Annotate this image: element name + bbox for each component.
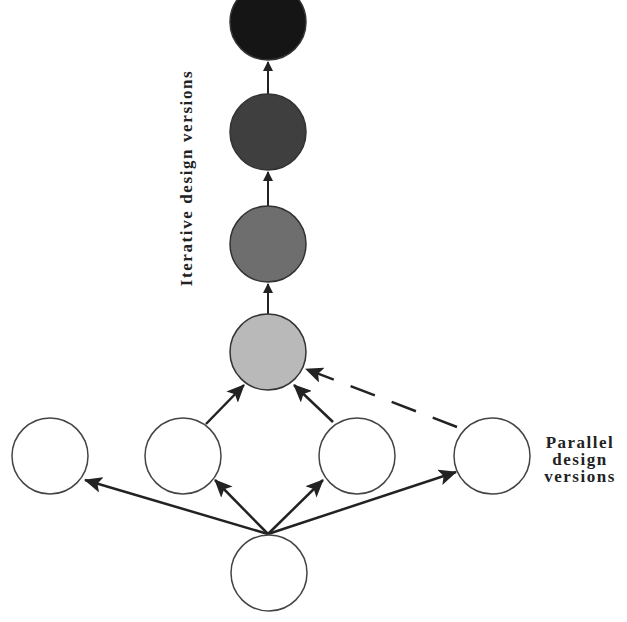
parallel-node-2 — [145, 418, 221, 494]
iterative-node-2 — [230, 206, 306, 282]
parallel-node-3 — [319, 418, 395, 494]
parallel-node-1 — [12, 418, 88, 494]
iterative-node-3 — [230, 94, 306, 170]
design-process-diagram: Iterative design versions Parallel desig… — [0, 0, 627, 622]
iterative-node-4 — [230, 0, 306, 60]
root-node — [231, 535, 307, 611]
arrow-par3-to-iter1 — [294, 385, 333, 422]
parallel-node-4 — [454, 418, 530, 494]
iterative-label: Iterative design versions — [177, 70, 196, 287]
parallel-label-line3: versions — [544, 467, 616, 486]
root-arrows — [85, 472, 456, 534]
iterative-node-1 — [230, 314, 306, 390]
arrow-par2-to-iter1 — [206, 385, 244, 424]
